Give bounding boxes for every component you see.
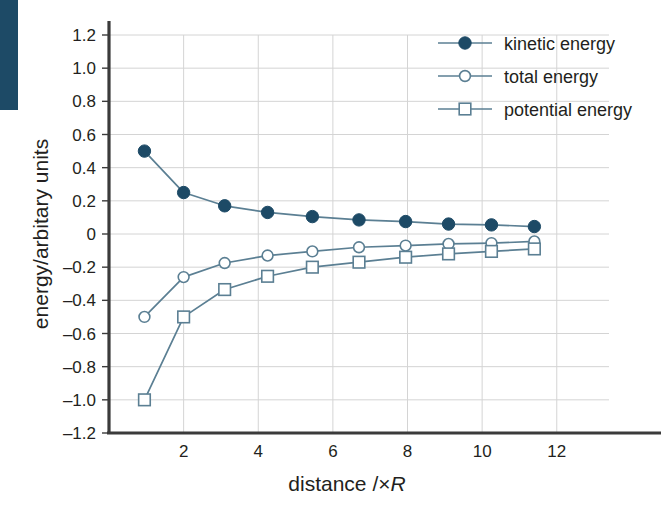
y-tick-label: –0.6: [63, 325, 96, 344]
data-point-kinetic-energy: [138, 145, 150, 157]
data-point-total-energy: [262, 250, 273, 261]
x-tick-label: 2: [179, 442, 188, 461]
data-point-kinetic-energy: [261, 206, 273, 218]
energy-vs-distance-line-chart: 1.21.00.80.60.40.20–0.2–0.4–0.6–0.8–1.0–…: [0, 0, 671, 516]
legend-marker-open-circle-icon: [460, 71, 471, 82]
series-line-kinetic-energy: [144, 151, 534, 226]
data-point-potential-energy: [262, 270, 274, 282]
x-tick-label: 10: [473, 442, 492, 461]
data-point-kinetic-energy: [442, 218, 454, 230]
y-tick-label: –0.2: [63, 258, 96, 277]
x-tick-label: 8: [403, 442, 412, 461]
y-tick-label: 1.0: [72, 59, 96, 78]
data-point-total-energy: [354, 242, 365, 253]
y-tick-label: 0.2: [72, 192, 96, 211]
data-point-kinetic-energy: [306, 210, 318, 222]
y-tick-label: 0.8: [72, 92, 96, 111]
data-point-potential-energy: [443, 248, 455, 260]
y-tick-label: –0.8: [63, 358, 96, 377]
legend-marker-open-square-icon: [459, 103, 471, 115]
x-tick-label: 4: [254, 442, 263, 461]
y-tick-label: 0.6: [72, 126, 96, 145]
legend-label-0: kinetic energy: [504, 34, 615, 54]
y-tick-label: –0.4: [63, 291, 96, 310]
data-point-kinetic-energy: [485, 219, 497, 231]
y-tick-label: –1.2: [63, 424, 96, 443]
data-point-total-energy: [219, 258, 230, 269]
data-point-total-energy: [178, 272, 189, 283]
data-point-kinetic-energy: [528, 220, 540, 232]
legend-label-2: potential energy: [504, 100, 632, 120]
data-point-potential-energy: [400, 251, 412, 263]
data-point-potential-energy: [139, 394, 151, 406]
x-tick-label: 12: [547, 442, 566, 461]
data-point-potential-energy: [353, 256, 365, 268]
chart-figure: 1.21.00.80.60.40.20–0.2–0.4–0.6–0.8–1.0–…: [0, 0, 671, 516]
data-point-potential-energy: [178, 311, 190, 323]
data-point-total-energy: [139, 312, 150, 323]
data-point-potential-energy: [529, 243, 541, 255]
data-point-kinetic-energy: [353, 214, 365, 226]
data-point-kinetic-energy: [218, 200, 230, 212]
y-tick-label: –1.0: [63, 391, 96, 410]
series-line-potential-energy: [144, 249, 534, 400]
data-point-total-energy: [400, 240, 411, 251]
x-axis-title: distance /×R: [288, 472, 405, 495]
data-point-kinetic-energy: [399, 215, 411, 227]
y-tick-label: 0.4: [72, 159, 96, 178]
legend-marker-filled-circle-icon: [459, 37, 471, 49]
x-tick-label: 6: [328, 442, 337, 461]
data-point-kinetic-energy: [177, 186, 189, 198]
data-point-potential-energy: [307, 261, 319, 273]
data-point-potential-energy: [486, 246, 498, 258]
data-point-potential-energy: [219, 284, 231, 296]
data-point-total-energy: [307, 246, 318, 257]
y-tick-label: 0: [87, 225, 96, 244]
legend-label-1: total energy: [504, 67, 598, 87]
y-tick-label: 1.2: [72, 26, 96, 45]
y-axis-title: energy/arbitary units: [29, 139, 52, 329]
